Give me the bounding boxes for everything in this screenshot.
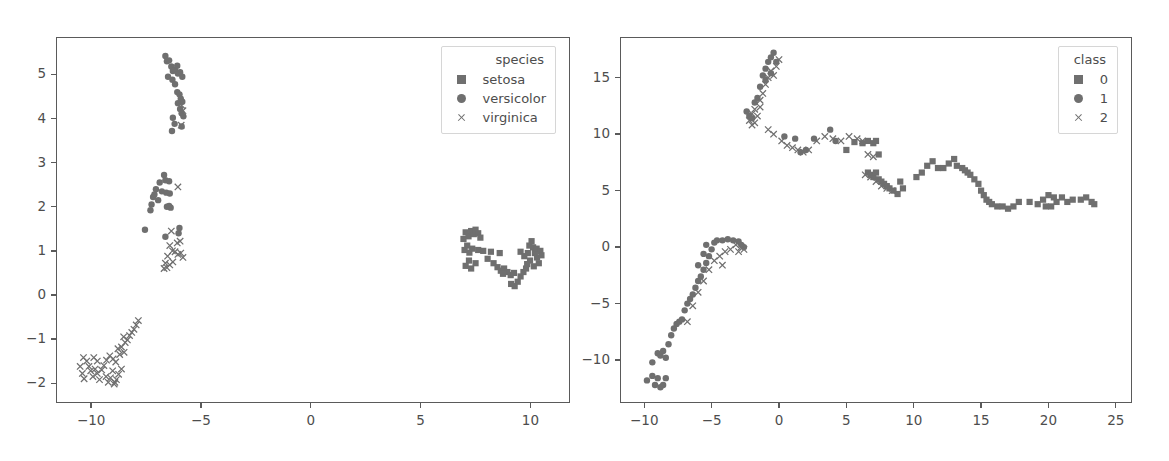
legend-title: class [1068,52,1108,67]
legend-entry-label: 1 [1090,91,1108,106]
legend-marker [451,94,473,103]
series-setosa [460,227,544,290]
legend-marker-x [1074,113,1083,122]
legend-marker-square [457,75,466,84]
legend-entry[interactable]: virginica [451,108,546,127]
legend-marker-circle [457,94,466,103]
legend-entry[interactable]: 0 [1068,70,1108,89]
legend-entry[interactable]: 2 [1068,108,1108,127]
legend-marker-circle [1074,94,1083,103]
legend-marker [1068,94,1090,103]
series-2 [684,56,895,324]
legend-entry-label: versicolor [473,91,546,106]
legend-marker [451,113,473,122]
legend-marker [1068,113,1090,122]
series-versicolor [142,53,187,240]
legend-entry-label: 0 [1090,72,1108,87]
legend: class01 2 [1058,46,1118,134]
series-virginica [77,102,186,387]
legend-entry[interactable]: versicolor [451,89,546,108]
legend: speciessetosaversicolor virginica [441,46,556,134]
series-0 [843,138,1097,212]
legend-marker-square [1074,75,1083,84]
legend-marker [1068,75,1090,84]
legend-entry-label: virginica [473,110,538,125]
legend-entry[interactable]: setosa [451,70,546,89]
scatter-plot-right: −10−50510152025151050−5−10class01 2 [585,0,1169,461]
legend-title: species [451,52,546,67]
legend-entry-label: setosa [473,72,526,87]
legend-entry[interactable]: 1 [1068,89,1108,108]
scatter-plot-left: −10−50510543210−1−2speciessetosaversicol… [0,0,585,461]
legend-marker [451,75,473,84]
series-1 [644,50,839,391]
legend-entry-label: 2 [1090,110,1108,125]
legend-marker-x [457,113,466,122]
figure-canvas: −10−50510543210−1−2speciessetosaversicol… [0,0,1169,461]
